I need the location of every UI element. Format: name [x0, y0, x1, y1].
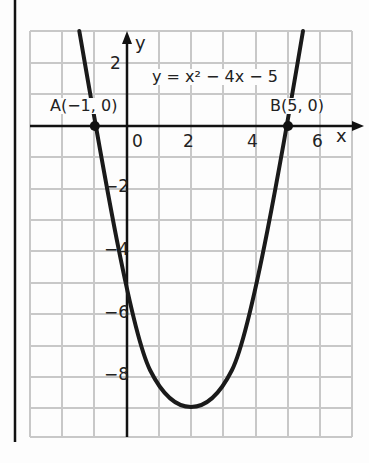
y-tick-minus-6: −6: [104, 304, 129, 321]
x-tick-2: 2: [183, 133, 194, 150]
y-tick-minus-2: −2: [104, 178, 129, 195]
y-axis-arrow-icon: [122, 31, 132, 44]
equation-label: y = x² − 4x − 5: [150, 69, 280, 85]
x-axis-label: x: [336, 127, 347, 145]
y-tick-minus-4: −4: [104, 241, 129, 258]
y-tick-2: 2: [110, 55, 121, 72]
point-b-marker: [283, 121, 293, 131]
y-tick-minus-8: −8: [104, 366, 129, 383]
grid: [30, 31, 352, 437]
point-b-label: B(5, 0): [269, 98, 325, 114]
x-tick-0: 0: [132, 133, 143, 150]
y-axis-label: y: [135, 34, 146, 52]
x-tick-6: 6: [312, 133, 323, 150]
point-a-marker: [90, 121, 100, 131]
point-a-label: A(−1, 0): [49, 98, 118, 114]
x-axis-arrow-icon: [352, 121, 364, 131]
x-tick-4: 4: [247, 133, 258, 150]
